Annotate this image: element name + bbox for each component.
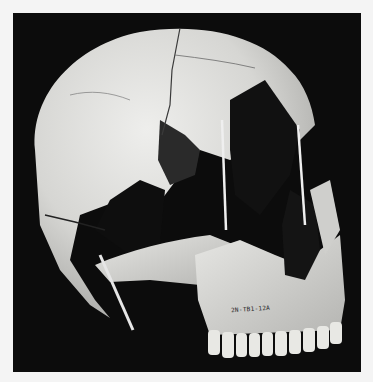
skull-illustration [13,13,361,372]
maxilla [195,235,345,335]
photo-frame: 2N-TB1-12A [13,13,361,372]
